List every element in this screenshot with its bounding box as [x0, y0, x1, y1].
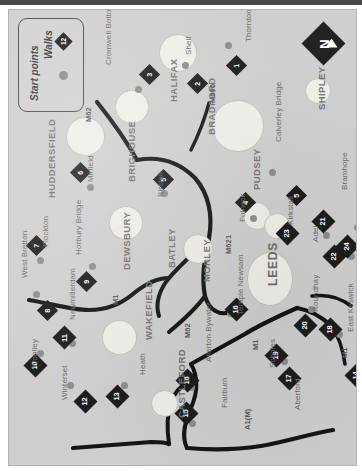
start-point-dot: [37, 257, 44, 264]
compass-north-letter: N: [304, 24, 344, 64]
village-label: Birstall: [157, 172, 165, 197]
walk-marker-number: 7: [33, 244, 40, 248]
village-label: Kirkstall: [287, 196, 295, 225]
road-label: M62: [85, 107, 93, 122]
village-label: Mirfield: [87, 155, 95, 182]
village-label: Calverley Bridge: [275, 82, 283, 142]
walk-marker-number: 8: [44, 309, 51, 313]
urban-blob: [66, 117, 105, 156]
walk-marker-number: 20: [302, 321, 310, 329]
walk-marker-number: 2: [194, 82, 201, 86]
urban-blob: [212, 100, 264, 152]
walk-marker-number: 13: [114, 392, 122, 400]
legend-box: 12 Walks Start points: [18, 18, 84, 112]
walk-marker-number: 18: [327, 325, 335, 333]
walk-marker-number: 1: [233, 64, 240, 68]
village-label: Flockton: [42, 216, 50, 247]
road-label: M1: [252, 339, 260, 350]
village-label: Fulneck: [239, 193, 247, 222]
village-label: Fairburn: [221, 377, 229, 408]
start-point-dot: [269, 169, 276, 176]
top-band: [0, 0, 362, 5]
town-label: BRIGHOUSE: [127, 121, 137, 182]
village-label: Winterset: [61, 365, 69, 400]
town-label: BATLEY: [167, 228, 177, 268]
legend-start-points-label: Start points: [29, 45, 40, 101]
village-label: Roundhay: [312, 275, 320, 312]
legend-walk-number: 12: [60, 38, 67, 45]
start-point-dot: [135, 86, 142, 93]
village-label: West Bretton: [21, 231, 29, 278]
start-point-dot: [354, 224, 357, 231]
road-label: M62: [184, 323, 192, 338]
town-label: HALIFAX: [169, 59, 179, 102]
legend-walks-label: Walks: [43, 30, 54, 59]
walk-marker-number: 6: [77, 171, 84, 175]
road-label: M606: [209, 84, 217, 103]
village-label: Heath: [139, 353, 147, 375]
village-label: Horbury Bridge: [75, 200, 83, 255]
village-label: Woolley: [31, 339, 39, 368]
village-label: East Keswick: [347, 283, 355, 332]
village-label: Thornton: [245, 9, 253, 42]
village-label: Adel: [312, 226, 320, 242]
village-label: Shelf: [185, 36, 193, 55]
village-label: Aberford: [294, 379, 302, 410]
start-point-dot: [250, 215, 257, 222]
town-label: HUDDERSFIELD: [47, 119, 57, 198]
walk-marker-number: 3: [146, 73, 153, 77]
town-label: WAKEFIELD: [144, 280, 154, 340]
town-label: DEWSBURY: [122, 212, 132, 270]
urban-blob: [102, 320, 137, 355]
legend-start-dot-icon: [59, 71, 68, 80]
village-label: Scholes: [269, 339, 277, 368]
town-label: MORLEY: [202, 239, 212, 282]
walk-marker-number: 9: [83, 280, 90, 284]
town-label: LEEDS: [267, 242, 279, 286]
village-label: Allerton Bywater: [205, 302, 213, 362]
walk-marker-number: 14: [353, 371, 357, 379]
walk-marker-number: 11: [61, 334, 69, 342]
start-point-dot: [323, 232, 330, 239]
village-label: Bramhope: [341, 152, 349, 190]
start-point-dot: [33, 291, 40, 298]
village-label: Temple Newsam: [237, 255, 245, 315]
village-label: Cromwell Bottom: [105, 9, 113, 65]
compass-rose: N: [304, 24, 344, 64]
start-point-dot: [225, 42, 232, 49]
village-label: Newmillerdam: [69, 268, 77, 320]
start-point-dot: [87, 184, 94, 191]
road-label: M1: [112, 294, 120, 305]
map-plate: 1234567891011121314151616171819202122232…: [8, 9, 357, 466]
town-label: SHIPLEY: [317, 67, 327, 110]
walk-marker-number: 22: [331, 252, 339, 260]
map-screenshot: 1234567891011121314151616171819202122232…: [0, 0, 362, 471]
start-point-dot: [121, 382, 128, 389]
start-point-dot: [89, 263, 96, 270]
urban-blob: [115, 90, 149, 124]
road-label: A1(M): [244, 409, 252, 430]
start-point-dot: [182, 62, 189, 69]
walk-marker-number: 23: [284, 229, 292, 237]
town-label: CASTLEFORD: [177, 349, 187, 418]
walk-marker-number: 21: [320, 217, 328, 225]
walk-marker-number: 24: [344, 242, 352, 250]
road-label: M1: [341, 347, 349, 358]
legend-walk-diamond-icon: 12: [54, 32, 72, 50]
walk-marker-number: 12: [82, 397, 90, 405]
road-label: M621: [225, 235, 233, 254]
town-label: PUDSEY: [252, 149, 262, 190]
north-arrow-icon: [326, 39, 338, 48]
